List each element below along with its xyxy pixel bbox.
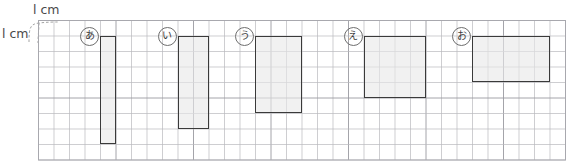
rectangle-い xyxy=(178,36,209,129)
rectangle-お xyxy=(472,36,550,83)
figure-label-あ: あ xyxy=(80,27,99,46)
worksheet-canvas: l cm l cm あいうえお xyxy=(0,0,581,167)
rectangle-あ xyxy=(100,36,116,145)
rectangle-え xyxy=(364,36,426,98)
figure-label-い: い xyxy=(158,27,177,46)
unit-label-vertical: l cm xyxy=(2,26,29,41)
centimetre-grid: あいうえお xyxy=(38,20,565,160)
figure-label-う: う xyxy=(235,27,254,46)
figure-label-え: え xyxy=(344,27,363,46)
figure-label-お: お xyxy=(452,27,471,46)
unit-label-horizontal: l cm xyxy=(33,2,60,17)
rectangle-う xyxy=(255,36,302,114)
